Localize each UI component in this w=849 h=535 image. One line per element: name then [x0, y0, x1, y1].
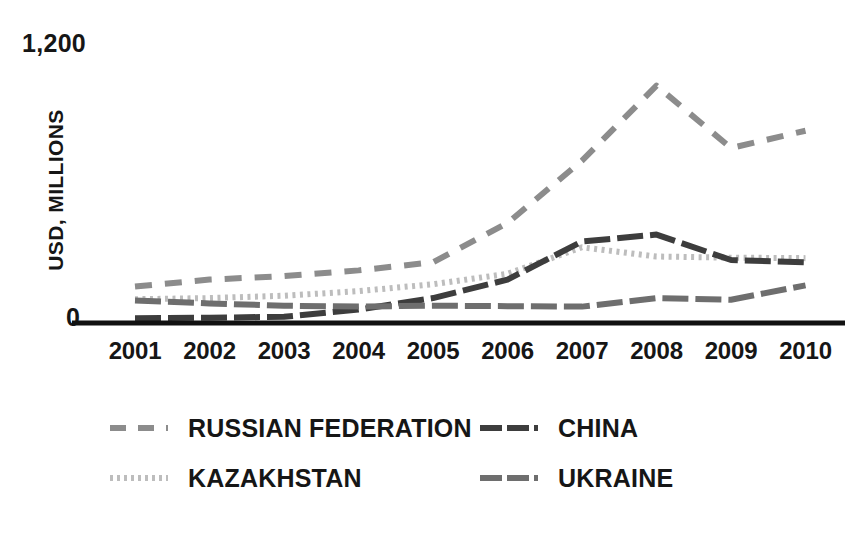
legend-item-china[interactable]: CHINA [478, 408, 638, 448]
x-axis-tick-label-2006: 2006 [468, 337, 548, 365]
x-axis-tick-label-2002: 2002 [170, 337, 250, 365]
chart-legend: RUSSIAN FEDERATION CHINA KAZAKHSTAN UKRA… [0, 402, 849, 512]
plot-area [0, 0, 849, 335]
legend-item-kazakhstan[interactable]: KAZAKHSTAN [108, 458, 362, 498]
line-chart: USD, MILLIONS 1,200 0 200120022003200420… [0, 0, 849, 535]
legend-item-ukraine[interactable]: UKRAINE [478, 458, 673, 498]
legend-line-icon-ukraine [478, 468, 540, 488]
x-axis-tick-label-2005: 2005 [393, 337, 473, 365]
plot-svg [0, 0, 849, 335]
legend-label-russian-federation: RUSSIAN FEDERATION [188, 414, 472, 443]
legend-label-ukraine: UKRAINE [558, 464, 673, 493]
x-axis-tick-label-2001: 2001 [95, 337, 175, 365]
x-axis-tick-label-2008: 2008 [617, 337, 697, 365]
x-axis-tick-label-2007: 2007 [542, 337, 622, 365]
legend-label-kazakhstan: KAZAKHSTAN [188, 464, 362, 493]
x-axis-tick-label-2009: 2009 [691, 337, 771, 365]
legend-line-icon-kazakhstan [108, 468, 170, 488]
x-axis: 2001200220032004200520062007200820092010 [0, 337, 849, 377]
x-axis-tick-label-2010: 2010 [766, 337, 846, 365]
legend-line-icon-russian-federation [108, 418, 170, 438]
series-line-russian-federation [135, 86, 806, 287]
x-axis-tick-label-2003: 2003 [244, 337, 324, 365]
legend-label-china: CHINA [558, 414, 638, 443]
legend-item-russian-federation[interactable]: RUSSIAN FEDERATION [108, 408, 472, 448]
x-axis-tick-label-2004: 2004 [319, 337, 399, 365]
legend-line-icon-china [478, 418, 540, 438]
